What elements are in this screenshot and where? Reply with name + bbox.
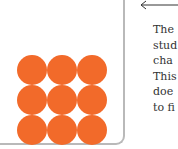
- caption-line: This: [153, 69, 177, 85]
- particle: [17, 85, 47, 115]
- caption-text: The stud cha This doe to fi: [153, 22, 177, 115]
- particle: [77, 85, 107, 115]
- caption-line: stud: [153, 38, 177, 54]
- particle: [47, 55, 77, 85]
- caption-line: The: [153, 22, 177, 38]
- particle: [17, 55, 47, 85]
- particle: [77, 115, 107, 145]
- particle: [47, 85, 77, 115]
- particle-grid: [17, 55, 107, 145]
- particle: [17, 115, 47, 145]
- particle: [47, 115, 77, 145]
- caption-line: cha: [153, 53, 177, 69]
- particle: [77, 55, 107, 85]
- caption-line: to fi: [153, 100, 177, 116]
- caption-line: doe: [153, 84, 177, 100]
- arrow-left-icon: [140, 0, 178, 12]
